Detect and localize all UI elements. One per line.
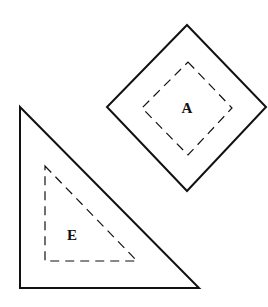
triangle-inner-dashed-outline (45, 166, 137, 261)
diamond-label: A (182, 100, 193, 116)
diagram-canvas: A E (0, 0, 268, 307)
triangle-outer-outline (20, 107, 199, 288)
triangle-label: E (67, 227, 77, 243)
diagram-svg: A E (0, 0, 268, 307)
